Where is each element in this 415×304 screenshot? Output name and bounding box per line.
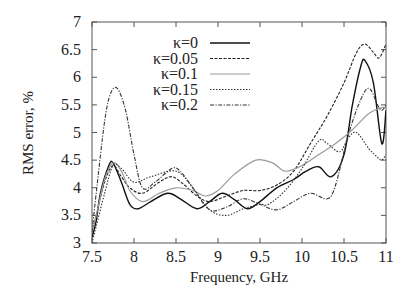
legend-label: κ=0	[173, 34, 198, 51]
series-line-2	[92, 107, 386, 232]
y-tick-label: 4	[73, 179, 81, 196]
y-axis-title: RMS error, %	[20, 91, 36, 175]
x-tick-label: 9.5	[250, 248, 270, 265]
x-tick-label: 10.5	[330, 248, 358, 265]
x-tick-label: 10	[294, 248, 310, 265]
x-tick-label: 7.5	[82, 248, 102, 265]
y-tick-label: 6	[73, 68, 81, 85]
series-line-0	[92, 59, 386, 237]
axis-ticks: 7.588.599.51010.51133.544.555.566.57	[61, 13, 394, 265]
legend-label: κ=0.2	[161, 96, 198, 113]
x-axis-title: Frequency, GHz	[190, 269, 289, 285]
y-tick-label: 5.5	[61, 96, 81, 113]
x-tick-label: 8.5	[166, 248, 186, 265]
legend-label: κ=0.1	[161, 65, 198, 82]
y-tick-label: 7	[73, 13, 81, 30]
y-tick-label: 5	[73, 124, 81, 141]
plot-frame	[92, 22, 386, 243]
y-tick-label: 6.5	[61, 41, 81, 58]
legend-label: κ=0.05	[153, 50, 198, 67]
legend: κ=0κ=0.05κ=0.1κ=0.15κ=0.2	[153, 34, 250, 113]
chart: 7.588.599.51010.51133.544.555.566.57 κ=0…	[0, 0, 415, 304]
y-tick-label: 3.5	[61, 206, 81, 223]
y-tick-label: 3	[73, 234, 81, 251]
x-tick-label: 8	[130, 248, 138, 265]
x-tick-label: 9	[214, 248, 222, 265]
legend-label: κ=0.15	[153, 81, 198, 98]
series-line-3	[92, 132, 386, 243]
x-tick-label: 11	[378, 248, 393, 265]
plot-border	[92, 22, 386, 243]
y-tick-label: 4.5	[61, 151, 81, 168]
